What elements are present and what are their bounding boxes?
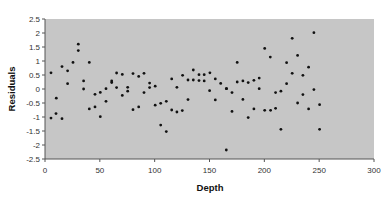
y-tick-label: 1.5 bbox=[29, 43, 41, 52]
data-point bbox=[236, 81, 239, 84]
data-point bbox=[94, 93, 97, 96]
data-point bbox=[159, 124, 162, 127]
data-point bbox=[296, 102, 299, 105]
data-point bbox=[126, 86, 129, 89]
data-point bbox=[274, 107, 277, 110]
y-tick-label: 1 bbox=[36, 57, 41, 66]
data-point bbox=[61, 117, 64, 120]
data-point bbox=[132, 108, 135, 111]
x-axis-title: Depth bbox=[197, 182, 224, 193]
data-point bbox=[165, 100, 168, 103]
plot-area bbox=[45, 19, 374, 159]
data-point bbox=[253, 79, 256, 82]
data-point bbox=[50, 117, 53, 120]
y-tick-label: 2 bbox=[36, 29, 41, 38]
data-point bbox=[88, 108, 91, 111]
data-point bbox=[318, 103, 321, 106]
data-point bbox=[258, 87, 261, 90]
data-point bbox=[291, 37, 294, 40]
data-point bbox=[208, 89, 211, 92]
data-point bbox=[176, 111, 179, 114]
data-point bbox=[143, 91, 146, 94]
data-point bbox=[66, 82, 69, 85]
data-point bbox=[121, 94, 124, 97]
data-point bbox=[302, 93, 305, 96]
data-point bbox=[105, 87, 108, 90]
data-point bbox=[192, 79, 195, 82]
data-point bbox=[296, 54, 299, 57]
data-point bbox=[154, 85, 157, 88]
data-point bbox=[55, 97, 58, 100]
x-tick-label: 50 bbox=[95, 166, 104, 175]
data-point bbox=[61, 65, 64, 68]
data-point bbox=[253, 108, 256, 111]
data-point bbox=[242, 80, 245, 83]
data-point bbox=[50, 71, 53, 74]
data-point bbox=[214, 99, 217, 102]
data-point bbox=[307, 108, 310, 111]
data-point bbox=[137, 75, 140, 78]
x-tick-label: 300 bbox=[367, 166, 381, 175]
data-point bbox=[285, 82, 288, 85]
data-point bbox=[181, 74, 184, 77]
data-point bbox=[72, 61, 75, 64]
y-tick-label: 0 bbox=[36, 85, 41, 94]
x-tick-label: 200 bbox=[258, 166, 272, 175]
data-point bbox=[170, 78, 173, 81]
data-point bbox=[77, 49, 80, 52]
data-point bbox=[121, 73, 124, 76]
data-point bbox=[148, 86, 151, 89]
data-point bbox=[313, 88, 316, 91]
data-point bbox=[126, 90, 129, 93]
data-point bbox=[231, 91, 234, 94]
data-point bbox=[203, 80, 206, 83]
data-point bbox=[318, 128, 321, 131]
data-point bbox=[302, 74, 305, 77]
y-tick-label: 2.5 bbox=[29, 15, 41, 24]
data-point bbox=[280, 128, 283, 131]
data-point bbox=[165, 130, 168, 133]
data-point bbox=[280, 90, 283, 93]
y-tick-label: -0.5 bbox=[26, 99, 40, 108]
data-point bbox=[269, 56, 272, 59]
data-point bbox=[88, 61, 91, 64]
data-point bbox=[181, 109, 184, 112]
data-point bbox=[214, 78, 217, 81]
data-point bbox=[285, 61, 288, 64]
y-tick-label: -2.5 bbox=[26, 155, 40, 164]
data-point bbox=[263, 47, 266, 50]
data-point bbox=[247, 116, 250, 119]
data-point bbox=[82, 88, 85, 91]
data-point bbox=[236, 61, 239, 64]
y-axis: 2.521.510.50-0.5-1-1.5-2-2.5 bbox=[26, 15, 45, 164]
y-tick-label: -1.5 bbox=[26, 127, 40, 136]
x-tick-label: 100 bbox=[148, 166, 162, 175]
data-point bbox=[132, 72, 135, 75]
data-point bbox=[170, 109, 173, 112]
x-tick-label: 150 bbox=[203, 166, 217, 175]
y-tick-label: 0.5 bbox=[29, 71, 41, 80]
data-point bbox=[203, 73, 206, 76]
data-point bbox=[110, 81, 113, 84]
data-point bbox=[105, 100, 108, 103]
x-tick-label: 250 bbox=[312, 166, 326, 175]
data-point bbox=[159, 102, 162, 105]
data-point bbox=[99, 115, 102, 118]
data-point bbox=[176, 86, 179, 89]
data-point bbox=[77, 43, 80, 46]
data-point bbox=[263, 109, 266, 112]
y-tick-label: -1 bbox=[33, 113, 41, 122]
residuals-scatter-chart: 2.521.510.50-0.5-1-1.5-2-2.5 05010015020… bbox=[0, 0, 389, 201]
y-axis-title: Residuals bbox=[6, 67, 17, 112]
data-point bbox=[187, 79, 190, 82]
data-point bbox=[115, 86, 118, 89]
data-point bbox=[242, 98, 245, 101]
data-point bbox=[137, 106, 140, 109]
x-tick-label: 0 bbox=[43, 166, 48, 175]
data-point bbox=[198, 73, 201, 76]
data-point bbox=[66, 69, 69, 72]
data-point bbox=[82, 80, 85, 83]
data-point bbox=[198, 79, 201, 82]
data-point bbox=[154, 104, 157, 107]
data-point bbox=[225, 149, 228, 152]
